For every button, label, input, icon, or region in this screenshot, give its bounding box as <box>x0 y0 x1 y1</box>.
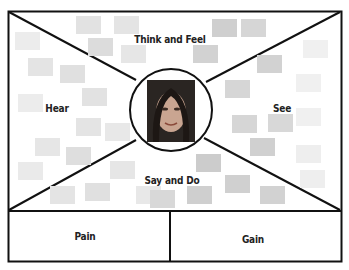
person-face-photo <box>147 80 195 142</box>
box-label-gain: Gain <box>242 234 264 245</box>
box-label-pain: Pain <box>74 231 95 242</box>
quadrant-label-see: See <box>273 103 291 114</box>
quadrant-label-think-feel: Think and Feel <box>134 34 205 45</box>
quadrant-label-hear: Hear <box>45 103 68 114</box>
quadrant-label-say-do: Say and Do <box>145 175 200 186</box>
